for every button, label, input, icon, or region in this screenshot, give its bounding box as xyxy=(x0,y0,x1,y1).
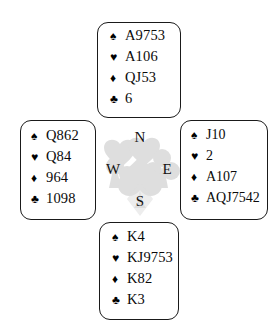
suit-row-hearts: ♥ A106 xyxy=(110,49,180,70)
compass-rose: N W E S xyxy=(100,122,180,218)
suit-row-hearts: ♥ KJ9753 xyxy=(112,250,178,271)
hand-south: ♠ K4 ♥ KJ9753 ♦ K82 ♣ K3 xyxy=(99,222,179,320)
suit-row-spades: ♠ K4 xyxy=(112,229,178,250)
west-hearts: Q84 xyxy=(46,149,71,164)
hand-west: ♠ Q862 ♥ Q84 ♦ 964 ♣ 1098 xyxy=(20,120,96,220)
heart-icon: ♥ xyxy=(31,151,46,163)
west-diamonds: 964 xyxy=(46,170,68,185)
suit-row-spades: ♠ A9753 xyxy=(110,28,180,49)
diamond-icon: ♦ xyxy=(31,172,46,184)
suit-row-hearts: ♥ Q84 xyxy=(31,149,95,170)
suit-row-diamonds: ♦ A107 xyxy=(191,170,267,191)
diamond-icon: ♦ xyxy=(112,273,127,285)
south-hearts: KJ9753 xyxy=(127,250,173,265)
suit-row-clubs: ♣ K3 xyxy=(112,292,178,313)
club-icon: ♣ xyxy=(110,93,125,105)
east-spades: J10 xyxy=(206,128,225,142)
suit-row-hearts: ♥ 2 xyxy=(191,149,267,170)
compass-north-label: N xyxy=(100,130,180,145)
north-hearts: A106 xyxy=(125,49,158,64)
suit-row-clubs: ♣ 1098 xyxy=(31,191,95,212)
east-clubs: AQJ7542 xyxy=(206,191,260,205)
suit-row-clubs: ♣ AQJ7542 xyxy=(191,191,267,212)
club-icon: ♣ xyxy=(191,192,206,204)
spade-icon: ♠ xyxy=(112,231,127,243)
suit-row-diamonds: ♦ K82 xyxy=(112,271,178,292)
west-clubs: 1098 xyxy=(46,191,76,206)
east-diamonds: A107 xyxy=(206,170,237,184)
north-diamonds: QJ53 xyxy=(125,70,156,85)
club-icon: ♣ xyxy=(112,294,127,306)
club-icon: ♣ xyxy=(31,193,46,205)
suit-row-spades: ♠ Q862 xyxy=(31,128,95,149)
bridge-deal-diagram: ♠ A9753 ♥ A106 ♦ QJ53 ♣ 6 ♠ Q862 ♥ Q84 ♦… xyxy=(0,0,274,336)
suit-row-clubs: ♣ 6 xyxy=(110,91,180,112)
suit-row-diamonds: ♦ QJ53 xyxy=(110,70,180,91)
spade-icon: ♠ xyxy=(110,30,125,42)
north-spades: A9753 xyxy=(125,28,165,43)
south-diamonds: K82 xyxy=(127,271,152,286)
suit-row-spades: ♠ J10 xyxy=(191,128,267,149)
north-clubs: 6 xyxy=(125,91,132,106)
diamond-icon: ♦ xyxy=(110,72,125,84)
heart-icon: ♥ xyxy=(191,150,206,162)
compass-south-label: S xyxy=(100,194,180,209)
south-spades: K4 xyxy=(127,229,145,244)
spade-icon: ♠ xyxy=(31,130,46,142)
diamond-icon: ♦ xyxy=(191,171,206,183)
heart-icon: ♥ xyxy=(112,252,127,264)
compass-east-label: E xyxy=(156,162,178,177)
heart-icon: ♥ xyxy=(110,51,125,63)
spade-icon: ♠ xyxy=(191,129,206,141)
west-spades: Q862 xyxy=(46,128,79,143)
hand-north: ♠ A9753 ♥ A106 ♦ QJ53 ♣ 6 xyxy=(97,22,181,118)
south-clubs: K3 xyxy=(127,292,145,307)
compass-west-label: W xyxy=(102,162,124,177)
hand-east: ♠ J10 ♥ 2 ♦ A107 ♣ AQJ7542 xyxy=(180,120,268,220)
east-hearts: 2 xyxy=(206,149,213,163)
suit-row-diamonds: ♦ 964 xyxy=(31,170,95,191)
